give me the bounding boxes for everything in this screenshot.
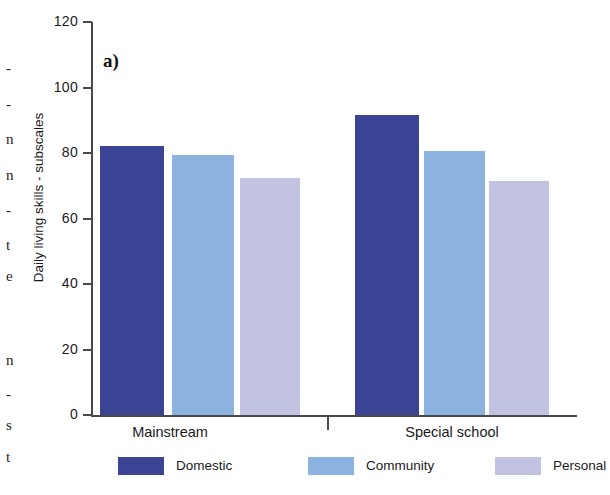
plot-area <box>91 22 575 415</box>
y-axis-title: Daily living skills - subscales <box>31 68 46 328</box>
bar <box>424 151 485 415</box>
legend-label: Community <box>366 458 434 473</box>
y-axis-tick-label: 40 <box>42 275 78 291</box>
legend-label: Personal <box>553 458 606 473</box>
bar <box>240 178 300 415</box>
bar <box>100 146 164 415</box>
bar <box>172 155 234 415</box>
bar-chart-figure: 020406080100120 Daily living skills - su… <box>0 0 610 495</box>
legend-swatch <box>118 457 164 475</box>
x-axis-group-label: Special school <box>362 424 542 440</box>
y-axis-tick-label: 0 <box>42 406 78 422</box>
bar <box>489 181 549 415</box>
legend-swatch <box>495 457 541 475</box>
y-axis-tick-label: 100 <box>42 79 78 95</box>
legend-label: Domestic <box>176 458 232 473</box>
legend-swatch <box>308 457 354 475</box>
x-axis-group-label: Mainstream <box>80 424 260 440</box>
y-axis-tick-label: 120 <box>42 13 78 29</box>
y-axis-tick-label: 20 <box>42 341 78 357</box>
bar <box>355 115 419 415</box>
y-axis-tick-label: 60 <box>42 210 78 226</box>
x-axis-group-separator-tick <box>327 417 329 430</box>
x-axis-line <box>91 415 577 417</box>
y-axis-tick-label: 80 <box>42 144 78 160</box>
